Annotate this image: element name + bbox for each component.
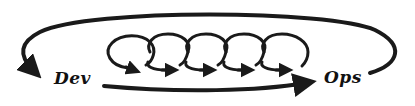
loop-3: [186, 34, 227, 70]
devops-cycle-diagram: [0, 0, 415, 106]
ops-to-dev-arc: [23, 15, 395, 74]
loop-4: [224, 34, 265, 70]
dev-label: Dev: [54, 70, 91, 87]
loop-1-arrow: [126, 67, 134, 70]
dev-to-ops-arrow: [104, 83, 305, 90]
ops-label: Ops: [324, 69, 362, 86]
iteration-loops: [108, 34, 308, 70]
loop-5: [262, 34, 308, 70]
